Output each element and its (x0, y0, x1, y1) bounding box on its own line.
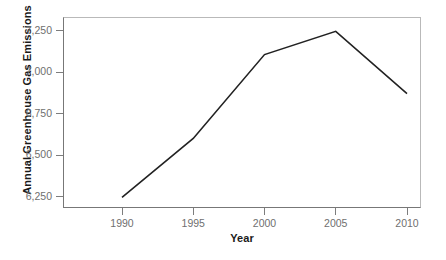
plot-panel (63, 17, 421, 208)
y-tick-label: 7,000 (0, 65, 52, 77)
x-tick-label: 2010 (377, 217, 437, 229)
y-tick-label: 6,250 (0, 190, 52, 202)
y-tick-label: 6,750 (0, 107, 52, 119)
y-tick-mark (56, 72, 63, 73)
x-tick-label: 1990 (92, 217, 152, 229)
x-tick-mark (335, 208, 336, 215)
x-tick-mark (264, 208, 265, 215)
y-tick-mark (56, 113, 63, 114)
y-tick-label: 6,500 (0, 148, 52, 160)
x-tick-mark (407, 208, 408, 215)
y-tick-mark (56, 30, 63, 31)
x-axis-title: Year (63, 232, 421, 244)
x-tick-label: 1995 (163, 217, 223, 229)
y-tick-mark (56, 196, 63, 197)
x-tick-mark (193, 208, 194, 215)
y-tick-label: 7,250 (0, 24, 52, 36)
y-tick-mark (56, 155, 63, 156)
chart-figure: Annual Greenhouse Gas Emissions 7,2507,0… (0, 0, 446, 260)
x-tick-label: 2005 (306, 217, 366, 229)
x-tick-mark (122, 208, 123, 215)
x-tick-label: 2000 (235, 217, 295, 229)
